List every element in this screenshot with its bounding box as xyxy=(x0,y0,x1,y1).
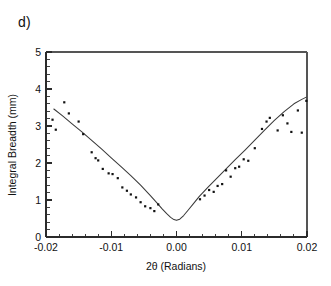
x-tick-label: 0.01 xyxy=(232,241,253,253)
data-point xyxy=(238,166,240,168)
data-point xyxy=(51,119,53,121)
data-point xyxy=(254,147,256,149)
data-point xyxy=(121,186,123,188)
data-point xyxy=(78,120,80,122)
y-tick-label: 2 xyxy=(35,157,41,169)
scatter-data-points xyxy=(51,100,307,212)
data-point xyxy=(102,168,104,170)
data-point xyxy=(91,151,93,153)
data-point xyxy=(286,122,288,124)
data-point xyxy=(149,207,151,209)
y-axis-tick-labels: 012345 xyxy=(35,46,41,243)
data-point xyxy=(153,210,155,212)
data-point xyxy=(208,189,210,191)
plot-frame xyxy=(46,52,307,237)
panel-label: d) xyxy=(18,14,31,30)
data-point xyxy=(126,190,128,192)
data-point xyxy=(221,183,223,185)
data-point xyxy=(277,129,279,131)
figure-panel: d) 012345 -0.02-0.010.000.010.02 2θ (Rad… xyxy=(0,0,331,286)
data-point xyxy=(63,101,65,103)
data-point xyxy=(230,176,232,178)
x-axis-title: 2θ (Radians) xyxy=(146,260,206,272)
chart-canvas: 012345 -0.02-0.010.000.010.02 2θ (Radian… xyxy=(0,0,331,286)
data-point xyxy=(297,109,299,111)
data-point xyxy=(261,128,263,130)
data-point xyxy=(97,159,99,161)
fitted-model-curve xyxy=(54,97,307,220)
data-point xyxy=(82,133,84,135)
data-point xyxy=(217,185,219,187)
data-point xyxy=(157,203,159,205)
data-point xyxy=(111,173,113,175)
data-point xyxy=(269,117,271,119)
data-point xyxy=(225,169,227,171)
data-point xyxy=(301,132,303,134)
x-axis-ticks xyxy=(46,231,307,237)
data-point xyxy=(55,129,57,131)
data-point xyxy=(282,114,284,116)
data-point xyxy=(243,158,245,160)
x-tick-label: 0.02 xyxy=(297,241,318,253)
data-point xyxy=(199,198,201,200)
data-point xyxy=(265,120,267,122)
data-point xyxy=(203,194,205,196)
y-tick-label: 4 xyxy=(35,83,41,95)
data-point xyxy=(247,160,249,162)
data-point xyxy=(130,193,132,195)
x-tick-label: -0.01 xyxy=(99,241,123,253)
data-point xyxy=(290,131,292,133)
data-point xyxy=(117,177,119,179)
data-point xyxy=(108,172,110,174)
y-axis-ticks xyxy=(46,52,52,237)
x-axis-tick-labels: -0.02-0.010.000.010.02 xyxy=(34,241,317,253)
data-point xyxy=(213,191,215,193)
data-point xyxy=(135,196,137,198)
data-point xyxy=(305,100,307,102)
x-tick-label: -0.02 xyxy=(34,241,58,253)
data-point xyxy=(144,205,146,207)
y-tick-label: 5 xyxy=(35,46,41,58)
data-point xyxy=(68,112,70,114)
y-tick-label: 3 xyxy=(35,120,41,132)
x-tick-label: 0.00 xyxy=(166,241,187,253)
y-tick-label: 1 xyxy=(35,194,41,206)
data-point xyxy=(234,167,236,169)
y-axis-title: Integral Breadth (mm) xyxy=(6,94,18,196)
data-point xyxy=(94,157,96,159)
data-point xyxy=(140,201,142,203)
